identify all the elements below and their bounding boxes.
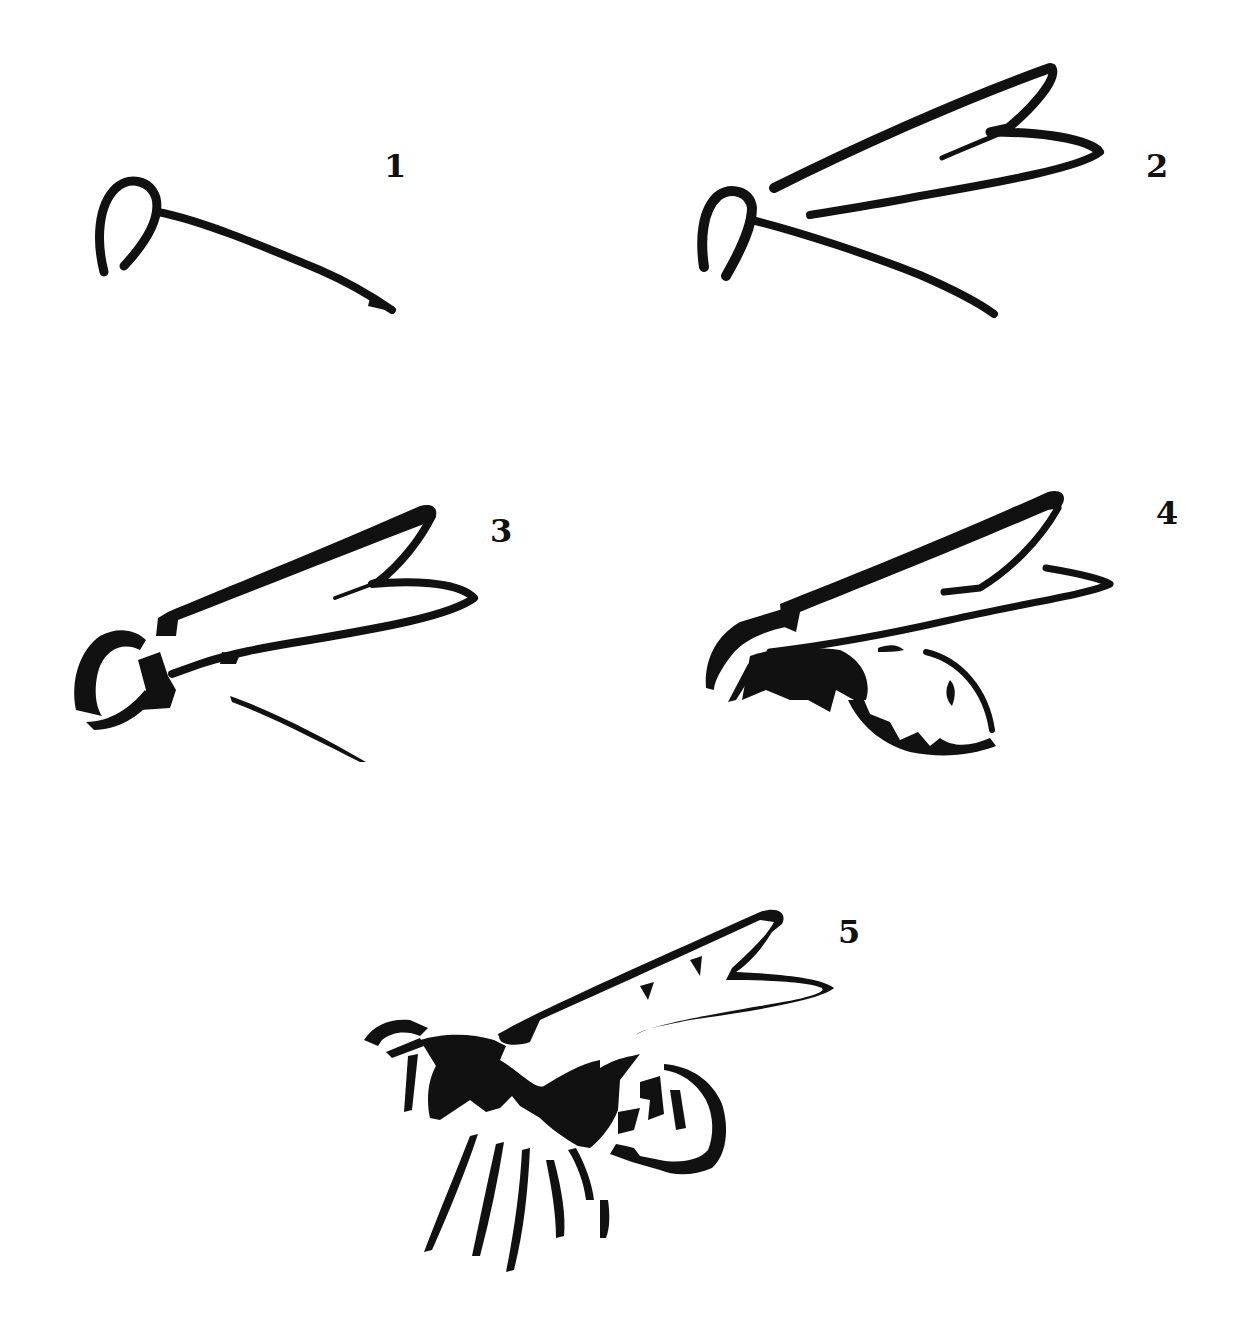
step-5-drawing [0,0,1251,1338]
step-number-5: 5 [838,916,860,948]
step-5: 5 [0,0,1251,1338]
